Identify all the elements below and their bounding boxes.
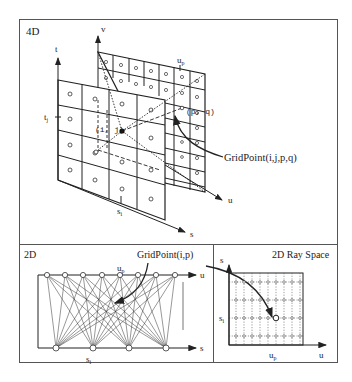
gridpoint-2d-callout: GridPoint(i,p) — [137, 249, 193, 261]
up-label-4d: up — [177, 55, 185, 66]
ray-fan — [47, 275, 175, 348]
point-pq-label: (p, q) — [186, 107, 215, 116]
ray-space-grid — [229, 273, 303, 345]
s-axis-label: s — [190, 229, 194, 239]
gridpoint-ray-space — [273, 315, 279, 321]
s-label-2d: s — [200, 343, 204, 353]
st-plane — [58, 80, 165, 220]
u-label-2d: u — [200, 270, 205, 280]
light-field-diagram: 4D — [0, 0, 352, 382]
panel-ray-space-label: 2D Ray Space — [272, 249, 330, 260]
up-label-ray: up — [269, 350, 277, 361]
point-ij-label: (i, j) — [95, 125, 124, 134]
s-axis-ray-label: s — [220, 255, 224, 265]
gridpoint-4d-callout: GridPoint(i,j,p,q) — [224, 152, 297, 164]
si-label: si — [117, 206, 123, 217]
cross-panel-arrow — [206, 266, 272, 317]
v-axis-label: v — [101, 24, 106, 34]
si-label-ray: si — [219, 313, 225, 324]
tj-label: tj — [44, 112, 49, 123]
panel-4d: 4D — [26, 24, 297, 239]
panel-4d-label: 4D — [26, 25, 40, 37]
u-axis-label: u — [228, 195, 233, 205]
panel-2d: 2D u s up si GridPoint(i,p) — [24, 249, 272, 365]
panel-ray-space: 2D Ray Space s u si up — [219, 249, 330, 361]
up-label-2d: up — [117, 263, 125, 274]
t-axis-label: t — [55, 44, 58, 54]
panel-2d-label: 2D — [24, 249, 36, 260]
si-label-2d: si — [86, 354, 92, 365]
u-axis-ray-label: u — [319, 350, 324, 360]
